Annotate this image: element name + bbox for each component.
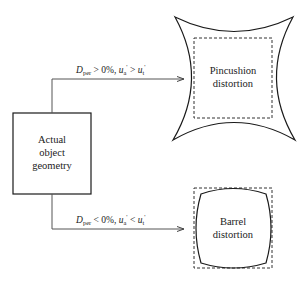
source-line-1: Actual [38,134,66,145]
barrel-line-1: Barrel [220,216,246,227]
pincushion-distortion-figure: Pincushion distortion [173,17,295,140]
bottom-condition-label: Dper < 0%, ua' < ut' [75,213,145,226]
distortion-diagram: Actual object geometry Dper > 0%, ua' > … [0,0,305,287]
top-condition-label: Dper > 0%, ua' > ut' [75,63,145,76]
top-connector-arrow [52,79,184,113]
barrel-line-2: distortion [213,229,254,240]
pincushion-line-2: distortion [213,78,254,89]
pincushion-line-1: Pincushion [210,65,257,76]
barrel-distortion-figure: Barrel distortion [194,188,272,268]
source-line-3: geometry [32,160,72,171]
actual-geometry-box: Actual object geometry [13,113,91,194]
barrel-reference-square [194,188,272,268]
source-line-2: object [39,147,65,158]
